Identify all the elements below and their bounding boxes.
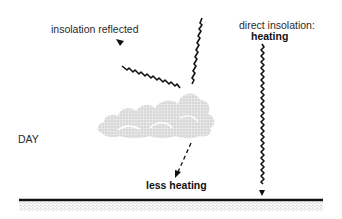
cloud-icon: [98, 94, 215, 139]
reflected-label: insolation reflected: [51, 24, 139, 35]
reflected-ray-icon: [116, 39, 180, 88]
heating-label: heating: [251, 31, 288, 42]
ground-surface: [19, 200, 323, 211]
direct-ray-icon: [259, 44, 265, 196]
diagram-canvas: insolation reflected direct insolation: …: [0, 0, 342, 219]
less-heating-label: less heating: [146, 180, 207, 191]
incoming-ray-icon: [192, 18, 202, 84]
transmitted-ray-icon: [175, 143, 191, 178]
day-label: DAY: [18, 134, 39, 145]
